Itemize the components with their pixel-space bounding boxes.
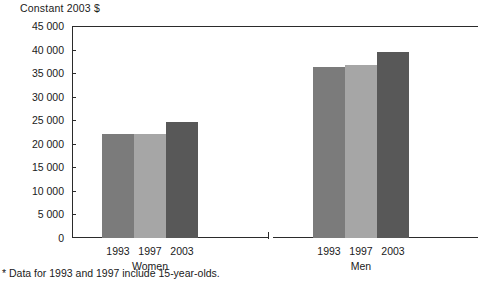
bar <box>166 122 198 238</box>
bar <box>377 52 409 238</box>
y-axis-tick-label: 40 000 <box>32 44 64 56</box>
bar <box>345 65 377 238</box>
chart-container: Constant 2003 $ 05 00010 00015 00020 000… <box>0 0 478 281</box>
y-axis-tick-label: 25 000 <box>32 114 64 126</box>
footnote: * Data for 1993 and 1997 include 15-year… <box>2 267 220 279</box>
y-axis-tick-mark <box>72 73 76 74</box>
y-axis-title: Constant 2003 $ <box>20 2 100 14</box>
bar <box>102 134 134 238</box>
y-axis-tick-mark <box>72 214 76 215</box>
y-axis-tick-label: 10 000 <box>32 185 64 197</box>
y-axis-tick-label: 30 000 <box>32 91 64 103</box>
y-axis-tick-label: 35 000 <box>32 67 64 79</box>
y-axis-tick-label: 5 000 <box>38 208 64 220</box>
baseline-group-separator <box>268 232 273 239</box>
y-axis-tick-mark <box>72 97 76 98</box>
y-axis-tick-mark <box>72 120 76 121</box>
y-axis-tick-mark <box>72 50 76 51</box>
category-label: 2003 <box>381 245 404 257</box>
y-axis-tick-label: 45 000 <box>32 20 64 32</box>
bar <box>313 67 345 238</box>
category-label: 1993 <box>317 245 340 257</box>
bar <box>134 134 166 238</box>
category-label: 1997 <box>349 245 372 257</box>
y-axis-tick-mark <box>72 191 76 192</box>
category-label: 2003 <box>170 245 193 257</box>
y-axis-tick-label: 0 <box>58 232 64 244</box>
group-label: Men <box>351 260 371 272</box>
y-axis-tick-label: 15 000 <box>32 161 64 173</box>
y-axis-tick-label: 20 000 <box>32 138 64 150</box>
y-axis-tick-mark <box>72 167 76 168</box>
y-axis-tick-mark <box>72 144 76 145</box>
category-label: 1997 <box>138 245 161 257</box>
category-label: 1993 <box>106 245 129 257</box>
